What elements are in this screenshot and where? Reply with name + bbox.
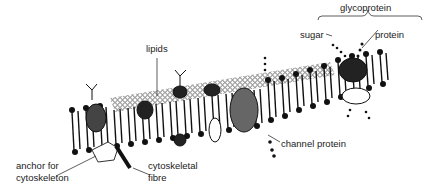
label-glycoprotein: glycoprotein — [340, 2, 391, 13]
label-fibre-line1: cytoskeletal — [148, 160, 198, 171]
label-fibre-line2: fibre — [148, 172, 166, 183]
label-protein: protein — [375, 29, 404, 40]
label-anchor-line2: cytoskeleton — [16, 172, 69, 183]
label-lipids: lipids — [146, 43, 168, 54]
label-channel-protein: channel protein — [281, 138, 346, 149]
label-anchor-line1: anchor for — [16, 160, 59, 171]
label-sugar: sugar — [300, 29, 324, 40]
membrane-diagram — [0, 0, 427, 192]
